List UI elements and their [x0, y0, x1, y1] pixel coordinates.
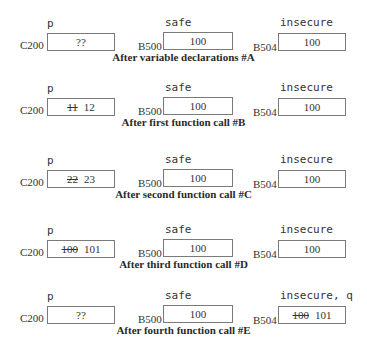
var-label-insecure: insecure, q — [280, 289, 353, 302]
var-label-p: p — [47, 154, 54, 167]
address-p: C200 — [20, 104, 44, 116]
memory-cell-insecure: 100 — [278, 240, 346, 258]
current-value: 100 — [304, 243, 321, 255]
old-value: 100 — [293, 309, 310, 321]
address-p: C200 — [20, 176, 44, 188]
var-label-insecure: insecure — [280, 81, 333, 94]
var-label-safe: safe — [165, 289, 192, 302]
memory-cell-safe: 100 — [163, 169, 233, 187]
current-value: 100 — [190, 35, 207, 47]
var-label-insecure: insecure — [280, 16, 333, 29]
memory-state-panel: p C200 11 12 safe B500 100 insecure B504… — [0, 81, 367, 151]
var-label-insecure: insecure — [280, 153, 333, 166]
panel-caption: After variable declarations #A — [0, 51, 367, 63]
panel-caption: After first function call #B — [0, 116, 367, 128]
memory-cell-safe: 100 — [163, 97, 233, 115]
address-p: C200 — [20, 39, 44, 51]
old-value: 22 — [67, 173, 78, 185]
current-value: 100 — [304, 173, 321, 185]
memory-state-panel: p C200 22 23 safe B500 100 insecure B504… — [0, 153, 367, 223]
current-value: 100 — [190, 308, 207, 320]
panel-caption: After fourth function call #E — [0, 324, 367, 336]
var-label-safe: safe — [165, 223, 192, 236]
memory-cell-p: ?? — [47, 33, 115, 51]
old-value: 100 — [62, 243, 79, 255]
memory-cell-insecure: 100 — [278, 98, 346, 116]
memory-state-panel: p C200 ?? safe B500 100 insecure B504 10… — [0, 16, 367, 86]
memory-cell-p: 100 101 — [47, 240, 115, 258]
current-value: 23 — [84, 173, 95, 185]
var-label-p: p — [47, 224, 54, 237]
var-label-p: p — [47, 82, 54, 95]
memory-cell-insecure: 100 — [278, 33, 346, 51]
current-value: 12 — [84, 101, 95, 113]
memory-cell-insecure: 100 — [278, 170, 346, 188]
memory-cell-safe: 100 — [163, 32, 233, 50]
memory-cell-insecure: 100 101 — [278, 306, 346, 324]
current-value: 100 — [190, 242, 207, 254]
memory-state-panel: p C200 ?? safe B500 100 insecure, q B504… — [0, 289, 367, 359]
var-label-safe: safe — [165, 81, 192, 94]
address-p: C200 — [20, 246, 44, 258]
current-value: 100 — [304, 101, 321, 113]
current-value: 101 — [84, 243, 101, 255]
memory-cell-safe: 100 — [163, 239, 233, 257]
current-value: ?? — [76, 309, 86, 321]
panel-caption: After third function call #D — [0, 258, 367, 270]
var-label-safe: safe — [165, 153, 192, 166]
var-label-p: p — [47, 290, 54, 303]
current-value: 100 — [190, 100, 207, 112]
current-value: 101 — [315, 309, 332, 321]
memory-cell-safe: 100 — [163, 305, 233, 323]
var-label-p: p — [47, 17, 54, 30]
var-label-safe: safe — [165, 16, 192, 29]
memory-state-panel: p C200 100 101 safe B500 100 insecure B5… — [0, 223, 367, 293]
memory-cell-p: 22 23 — [47, 170, 115, 188]
memory-cell-p: ?? — [47, 306, 115, 324]
current-value: ?? — [76, 36, 86, 48]
var-label-insecure: insecure — [280, 223, 333, 236]
address-p: C200 — [20, 312, 44, 324]
memory-cell-p: 11 12 — [47, 98, 115, 116]
panel-caption: After second function call #C — [0, 188, 367, 200]
current-value: 100 — [190, 172, 207, 184]
old-value: 11 — [67, 101, 78, 113]
current-value: 100 — [304, 36, 321, 48]
